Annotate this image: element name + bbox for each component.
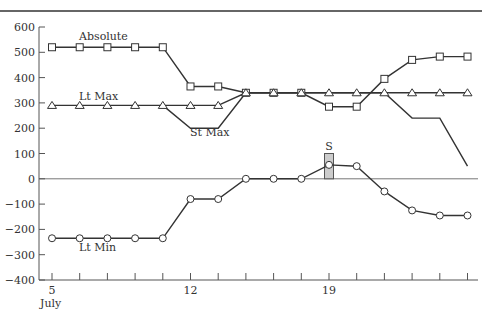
marker-absolute xyxy=(187,83,194,90)
x-tick-label: 19 xyxy=(322,284,336,297)
marker-absolute xyxy=(381,75,388,82)
x-tick-label: 5 xyxy=(49,284,56,297)
marker-lt-min xyxy=(215,196,222,203)
series-label-st-max: St Max xyxy=(190,126,230,139)
series-label-lt-max: Lt Max xyxy=(79,90,119,103)
marker-lt-min xyxy=(187,196,194,203)
line-chart: 6005004003002001000−100−200−300−4005July… xyxy=(0,0,489,313)
marker-absolute xyxy=(326,103,333,110)
y-tick-label: 0 xyxy=(28,173,35,186)
marker-lt-min xyxy=(353,163,360,170)
y-tick-label: −400 xyxy=(5,274,35,287)
marker-lt-min xyxy=(270,175,277,182)
series-label-lt-min: Lt Min xyxy=(79,241,116,254)
marker-absolute xyxy=(409,56,416,63)
x-axis-sublabel: July xyxy=(39,297,62,310)
marker-lt-min xyxy=(409,207,416,214)
series-labels: AbsoluteLt MaxSt MaxLt Min xyxy=(78,30,230,254)
y-tick-label: 100 xyxy=(14,148,35,161)
marker-absolute xyxy=(76,44,83,51)
series-label-absolute: Absolute xyxy=(78,30,128,43)
y-tick-label: 300 xyxy=(14,97,35,110)
signal-bar-label: S xyxy=(325,140,333,153)
y-tick-label: −100 xyxy=(5,198,35,211)
series-group xyxy=(48,44,473,242)
y-tick-label: −300 xyxy=(5,249,35,262)
marker-lt-min xyxy=(49,235,56,242)
annotations: S xyxy=(325,140,334,179)
marker-lt-min xyxy=(381,188,388,195)
y-tick-label: 400 xyxy=(14,72,35,85)
marker-absolute xyxy=(132,44,139,51)
marker-lt-min xyxy=(436,212,443,219)
axes: 6005004003002001000−100−200−300−4005July… xyxy=(5,21,478,310)
marker-absolute xyxy=(49,44,56,51)
marker-lt-min xyxy=(242,175,249,182)
marker-lt-min xyxy=(132,235,139,242)
marker-lt-min xyxy=(326,161,333,168)
marker-lt-min xyxy=(159,235,166,242)
marker-absolute xyxy=(159,44,166,51)
y-tick-label: −200 xyxy=(5,223,35,236)
marker-absolute xyxy=(353,103,360,110)
marker-absolute xyxy=(215,83,222,90)
marker-absolute xyxy=(104,44,111,51)
marker-lt-min xyxy=(464,212,471,219)
series-line-lt-min xyxy=(52,165,468,238)
marker-absolute xyxy=(436,53,443,60)
y-tick-label: 600 xyxy=(14,21,35,34)
y-tick-label: 500 xyxy=(14,46,35,59)
marker-absolute xyxy=(464,53,471,60)
y-tick-label: 200 xyxy=(14,122,35,135)
marker-lt-min xyxy=(298,175,305,182)
x-tick-label: 12 xyxy=(184,284,198,297)
